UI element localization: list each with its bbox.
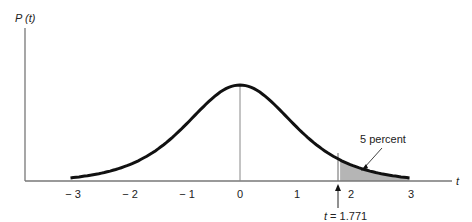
shade-annotation: 5 percent [360, 133, 406, 145]
critical-value-text: = 1.771 [327, 210, 367, 222]
tick-label: − 2 [122, 188, 138, 200]
tick-label: 2 [348, 188, 354, 200]
arrow-up-icon [335, 184, 341, 191]
t-distribution-chart: P (t) t − 3 − 2 − 1 0 1 2 3 5 percent t … [0, 0, 472, 222]
tick-label: − 1 [179, 188, 195, 200]
tick-label: 1 [294, 188, 300, 200]
y-axis-label: P (t) [15, 12, 36, 24]
tick-label: − 3 [65, 188, 81, 200]
tick-label: 0 [237, 188, 243, 200]
annotation-pointer [364, 148, 382, 168]
critical-value-label: t = 1.771 [324, 210, 367, 222]
tick-label: 3 [408, 188, 414, 200]
x-axis-label: t [456, 175, 460, 187]
